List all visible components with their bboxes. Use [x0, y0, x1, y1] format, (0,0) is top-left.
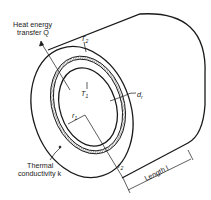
cylinder-heat-diagram: Heat energy transfer Q T2 T1 dr r1 r2 Th…: [0, 0, 211, 200]
outer-temp-label: T2: [81, 34, 88, 44]
conductivity-label-2: conductivity k: [18, 169, 62, 178]
wall-element-label: dr: [137, 90, 143, 100]
length-label: Length l: [143, 163, 170, 182]
heat-transfer-label-2: transfer Q: [17, 28, 49, 37]
